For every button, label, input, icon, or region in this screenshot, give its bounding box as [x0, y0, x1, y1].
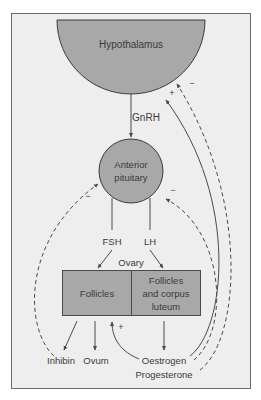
follicles-cl-label-3: luteum — [152, 301, 181, 312]
pituitary-right-negative-sign: − — [170, 185, 175, 195]
hypothalamus-label: Hypothalamus — [99, 39, 163, 50]
ovary-label: Ovary — [118, 257, 144, 268]
ovum-label: Ovum — [83, 355, 108, 366]
lh-label: LH — [144, 236, 156, 247]
hpo-axis-diagram: Hypothalamus GnRH Anterior pituitary FSH… — [0, 0, 261, 400]
hypothalamus-negative-sign: − — [189, 78, 194, 88]
pituitary-left-negative-sign: − — [85, 191, 90, 201]
follicles-label: Follicles — [80, 288, 115, 299]
progesterone-label: Progesterone — [135, 369, 192, 380]
hypothalamus-positive-sign: + — [169, 88, 174, 98]
follicles-cl-label-1: Follicles — [149, 275, 184, 286]
follicles-cl-label-2: and corpus — [142, 288, 189, 299]
anterior-pituitary-label-2: pituitary — [114, 172, 148, 183]
follicles-positive-sign: + — [118, 322, 123, 332]
anterior-pituitary-label-1: Anterior — [114, 159, 147, 170]
gnrh-label: GnRH — [132, 112, 160, 123]
fsh-label: FSH — [103, 236, 122, 247]
anterior-pituitary-shape — [99, 139, 163, 203]
oestrogen-label: Oestrogen — [142, 355, 186, 366]
inhibin-label: Inhibin — [47, 355, 75, 366]
